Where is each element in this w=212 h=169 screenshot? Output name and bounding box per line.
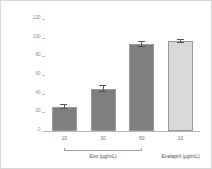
y-tick-mark bbox=[42, 38, 45, 39]
y-tick: 20 bbox=[28, 112, 45, 113]
x-tick-label: 50 bbox=[129, 135, 154, 141]
y-tick-mark bbox=[42, 131, 45, 132]
group-label: Enalapril (µg/mL) bbox=[141, 153, 212, 159]
x-axis-line bbox=[45, 131, 200, 132]
y-tick-label: 0 bbox=[38, 127, 41, 132]
y-tick: 0 bbox=[28, 131, 45, 132]
error-bar-cap-bottom bbox=[177, 42, 184, 43]
error-bar-cap-top bbox=[60, 104, 67, 105]
y-tick-mark bbox=[42, 112, 45, 113]
x-tick-label: 10 bbox=[168, 135, 193, 141]
x-tick-label: 30 bbox=[91, 135, 116, 141]
y-tick: 80 bbox=[28, 56, 45, 57]
error-bar-cap-bottom bbox=[138, 46, 145, 47]
group-bracket-part bbox=[141, 148, 142, 151]
y-tick: 100 bbox=[28, 38, 45, 39]
y-tick-mark bbox=[42, 56, 45, 57]
group-bracket-part bbox=[64, 150, 142, 151]
error-bar-cap-top bbox=[99, 85, 106, 86]
y-tick: 120 bbox=[28, 19, 45, 20]
bar bbox=[91, 89, 116, 131]
bar bbox=[168, 41, 193, 131]
y-tick: 40 bbox=[28, 94, 45, 95]
y-tick-label: 100 bbox=[33, 34, 41, 39]
group-bracket bbox=[64, 147, 142, 151]
group-bracket-part bbox=[64, 148, 65, 151]
y-tick: 60 bbox=[28, 75, 45, 76]
y-tick-mark bbox=[42, 94, 45, 95]
chart-figure: Inhibition of ACE Activity (%) 020406080… bbox=[0, 0, 212, 169]
y-tick-mark bbox=[42, 75, 45, 76]
bar bbox=[129, 44, 154, 131]
y-tick-label: 60 bbox=[35, 71, 40, 76]
group-label: Exo (µg/mL) bbox=[63, 153, 143, 159]
error-bar-cap-bottom bbox=[60, 108, 67, 109]
y-tick-label: 40 bbox=[35, 90, 40, 95]
error-bar-cap-top bbox=[177, 39, 184, 40]
bar bbox=[52, 107, 77, 131]
error-bar-cap-bottom bbox=[99, 91, 106, 92]
y-tick-label: 80 bbox=[35, 52, 40, 57]
error-bar-cap-top bbox=[138, 41, 145, 42]
x-tick-label: 10 bbox=[52, 135, 77, 141]
plot-area: 020406080100120 bbox=[45, 20, 200, 132]
y-tick-label: 20 bbox=[35, 108, 40, 113]
y-tick-mark bbox=[42, 19, 45, 20]
y-tick-label: 120 bbox=[33, 15, 41, 20]
